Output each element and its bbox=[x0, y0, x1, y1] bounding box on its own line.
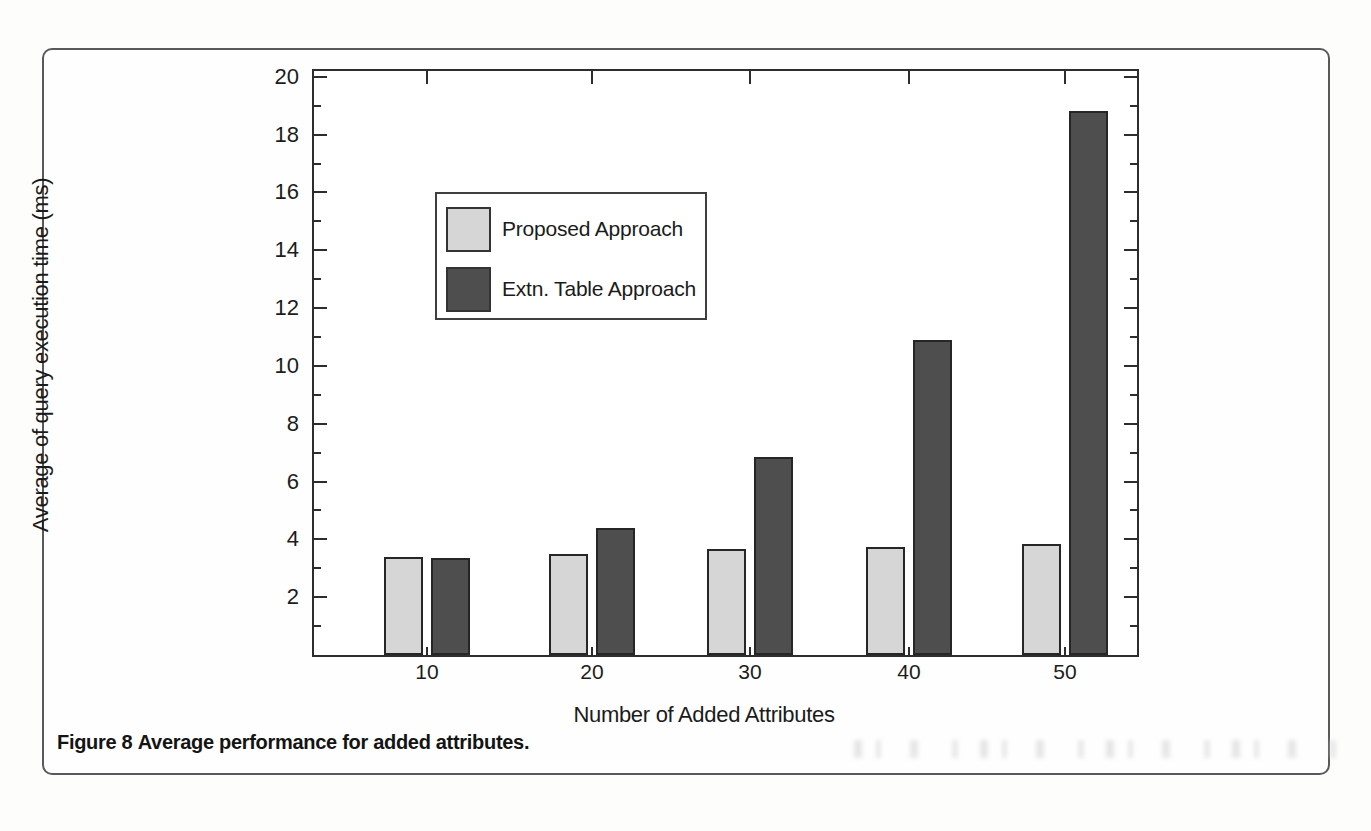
bar-extn-table-approach-50 bbox=[1069, 111, 1108, 655]
y-tick-label: 6 bbox=[204, 470, 299, 494]
y-major-tick bbox=[1124, 307, 1137, 309]
bar-proposed-approach-20 bbox=[549, 554, 588, 655]
y-minor-tick bbox=[314, 509, 321, 511]
y-minor-tick bbox=[1130, 163, 1137, 165]
y-minor-tick bbox=[314, 567, 321, 569]
x-major-tick-top bbox=[426, 71, 428, 84]
y-major-tick bbox=[314, 76, 327, 78]
x-major-tick-top bbox=[1064, 71, 1066, 84]
plot-inner bbox=[314, 71, 1137, 655]
y-minor-tick bbox=[314, 336, 321, 338]
y-minor-tick bbox=[1130, 220, 1137, 222]
y-major-tick bbox=[1124, 423, 1137, 425]
x-major-tick-top bbox=[749, 71, 751, 84]
y-major-tick bbox=[1124, 134, 1137, 136]
y-major-tick bbox=[314, 596, 327, 598]
bar-proposed-approach-30 bbox=[707, 549, 746, 655]
y-major-tick bbox=[1124, 365, 1137, 367]
x-major-tick-top bbox=[908, 71, 910, 84]
legend-swatch-extn-table-approach bbox=[446, 267, 491, 312]
y-tick-label: 4 bbox=[204, 527, 299, 551]
scan-ghosting-artifact bbox=[832, 740, 1342, 758]
bar-extn-table-approach-20 bbox=[596, 528, 635, 655]
x-tick-label: 10 bbox=[382, 660, 472, 684]
y-major-tick bbox=[1124, 481, 1137, 483]
bar-proposed-approach-10 bbox=[384, 557, 423, 655]
figure-caption-number: Figure 8 bbox=[57, 731, 132, 753]
y-major-tick bbox=[1124, 76, 1137, 78]
x-major-tick-bottom bbox=[426, 647, 428, 655]
figure-caption-text: Average performance for added attributes… bbox=[138, 731, 530, 753]
y-tick-label: 10 bbox=[204, 354, 299, 378]
chart-legend: Proposed Approach Extn. Table Approach bbox=[435, 192, 707, 320]
x-major-tick-top bbox=[591, 71, 593, 84]
y-major-tick bbox=[314, 538, 327, 540]
legend-item-extn-table-approach: Extn. Table Approach bbox=[446, 266, 696, 312]
page: 2468101214161820 1020304050 Average of q… bbox=[0, 0, 1371, 831]
y-major-tick bbox=[314, 481, 327, 483]
y-major-tick bbox=[314, 365, 327, 367]
y-tick-label: 16 bbox=[204, 180, 299, 204]
y-axis-title: Average of query execution time (ms) bbox=[28, 135, 56, 575]
y-major-tick bbox=[314, 249, 327, 251]
bar-proposed-approach-40 bbox=[866, 547, 905, 655]
y-major-tick bbox=[1124, 538, 1137, 540]
y-major-tick bbox=[1124, 191, 1137, 193]
y-major-tick bbox=[1124, 249, 1137, 251]
y-minor-tick bbox=[314, 163, 321, 165]
y-minor-tick bbox=[314, 452, 321, 454]
x-tick-label: 30 bbox=[705, 660, 795, 684]
y-major-tick bbox=[1124, 596, 1137, 598]
x-tick-label: 20 bbox=[547, 660, 637, 684]
y-minor-tick bbox=[1130, 394, 1137, 396]
y-minor-tick bbox=[314, 278, 321, 280]
legend-swatch-proposed-approach bbox=[446, 207, 491, 252]
x-major-tick-bottom bbox=[1064, 647, 1066, 655]
y-minor-tick bbox=[314, 105, 321, 107]
legend-label-proposed-approach: Proposed Approach bbox=[502, 217, 683, 241]
y-minor-tick bbox=[1130, 278, 1137, 280]
chart-plot-area bbox=[312, 69, 1139, 657]
bar-extn-table-approach-10 bbox=[431, 558, 470, 655]
y-minor-tick bbox=[1130, 567, 1137, 569]
y-minor-tick bbox=[1130, 509, 1137, 511]
figure-caption: Figure 8 Average performance for added a… bbox=[57, 730, 817, 754]
y-minor-tick bbox=[314, 394, 321, 396]
bar-extn-table-approach-30 bbox=[754, 457, 793, 655]
y-minor-tick bbox=[314, 625, 321, 627]
y-minor-tick bbox=[314, 220, 321, 222]
y-major-tick bbox=[314, 423, 327, 425]
x-tick-label: 50 bbox=[1020, 660, 1110, 684]
y-major-tick bbox=[314, 191, 327, 193]
y-minor-tick bbox=[1130, 336, 1137, 338]
x-major-tick-bottom bbox=[591, 647, 593, 655]
y-tick-label: 18 bbox=[204, 123, 299, 147]
figure-panel: 2468101214161820 1020304050 Average of q… bbox=[42, 48, 1330, 775]
y-tick-label: 8 bbox=[204, 412, 299, 436]
y-minor-tick bbox=[1130, 452, 1137, 454]
y-tick-label: 12 bbox=[204, 296, 299, 320]
x-tick-label: 40 bbox=[864, 660, 954, 684]
legend-item-proposed-approach: Proposed Approach bbox=[446, 206, 683, 252]
y-minor-tick bbox=[1130, 625, 1137, 627]
y-minor-tick bbox=[1130, 105, 1137, 107]
y-tick-label: 20 bbox=[204, 65, 299, 89]
y-tick-label: 2 bbox=[204, 585, 299, 609]
bar-proposed-approach-50 bbox=[1022, 544, 1061, 655]
y-major-tick bbox=[314, 134, 327, 136]
y-major-tick bbox=[314, 307, 327, 309]
bar-extn-table-approach-40 bbox=[913, 340, 952, 655]
legend-label-extn-table-approach: Extn. Table Approach bbox=[502, 277, 696, 301]
x-axis-title: Number of Added Attributes bbox=[404, 702, 1004, 728]
x-major-tick-bottom bbox=[749, 647, 751, 655]
x-major-tick-bottom bbox=[908, 647, 910, 655]
y-tick-label: 14 bbox=[204, 238, 299, 262]
